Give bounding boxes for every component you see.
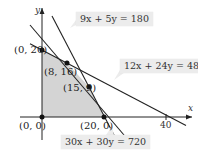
y-axis-arrow-icon <box>40 8 45 14</box>
vertex-dot-20-0 <box>102 115 107 120</box>
y-axis-label: y <box>35 6 40 15</box>
equation-label-30x-30y-720: 30x + 30y = 720 <box>61 135 150 149</box>
vertex-label-0-20: (0, 20) <box>14 45 47 55</box>
vertex-dot-8-16 <box>65 61 70 66</box>
equation-label-9x-5y-180: 9x + 5y = 180 <box>76 12 153 26</box>
feasible-region-diagram: y x 40 (0, 20) (8, 16) (15, 9) (20, 0) (… <box>0 0 198 154</box>
vertex-label-20-0: (20, 0) <box>80 121 113 131</box>
vertex-label-0-0: (0, 0) <box>19 121 46 131</box>
x-tick-label-40: 40 <box>160 121 171 130</box>
vertex-label-15-9: (15, 9) <box>63 83 96 93</box>
x-axis-arrow-icon <box>186 115 192 120</box>
equation-label-12x-24y-480: 12x + 24y = 480 <box>120 59 198 73</box>
vertex-dot-0-0 <box>40 115 45 120</box>
vertex-label-8-16: (8, 16) <box>44 67 77 77</box>
x-axis-label: x <box>188 104 193 113</box>
